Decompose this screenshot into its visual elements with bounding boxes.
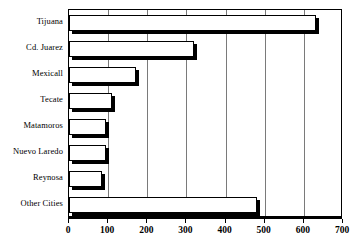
category-label: Matamoros — [0, 121, 63, 130]
axis-tick-label: 400 — [205, 225, 245, 236]
bar-row — [69, 41, 341, 57]
bar — [69, 15, 316, 31]
bar-row — [69, 119, 341, 135]
bar — [69, 67, 136, 83]
category-label: Nuevo Laredo — [0, 147, 63, 156]
axis-tick-label: 600 — [283, 225, 323, 236]
axis-tick — [146, 219, 147, 223]
axis-tick — [303, 219, 304, 223]
axis-tick-label: 300 — [165, 225, 205, 236]
axis-line — [68, 217, 342, 219]
bar — [69, 197, 257, 213]
axis-tick-label: 500 — [244, 225, 284, 236]
axis-tick — [225, 219, 226, 223]
axis-tick — [107, 219, 108, 223]
bar-row — [69, 93, 341, 109]
bar-row — [69, 145, 341, 161]
bar — [69, 171, 102, 187]
bar-row — [69, 171, 341, 187]
axis-tick-label: 100 — [87, 225, 127, 236]
axis-tick — [68, 219, 69, 223]
value-axis: 0100200300400500600700 — [68, 217, 342, 246]
axis-tick-label: 0 — [48, 225, 88, 236]
bar — [69, 93, 112, 109]
bar-chart: TijuanaCd. JuarezMexicallTecateMatamoros… — [0, 0, 354, 246]
category-label: Reynosa — [0, 173, 63, 182]
category-label: Cd. Juarez — [0, 43, 63, 52]
category-label: Tecate — [0, 95, 63, 104]
category-label: Other Cities — [0, 199, 63, 208]
category-label: Mexicall — [0, 69, 63, 78]
category-label: Tijuana — [0, 17, 63, 26]
axis-tick — [264, 219, 265, 223]
bar-row — [69, 67, 341, 83]
axis-tick — [185, 219, 186, 223]
bars-layer — [69, 10, 341, 216]
axis-tick — [342, 219, 343, 223]
axis-tick-label: 200 — [126, 225, 166, 236]
bar — [69, 41, 194, 57]
bar — [69, 145, 106, 161]
bar — [69, 119, 106, 135]
axis-tick-label: 700 — [322, 225, 354, 236]
bar-row — [69, 197, 341, 213]
plot-area — [68, 9, 342, 217]
category-axis: TijuanaCd. JuarezMexicallTecateMatamoros… — [0, 9, 66, 217]
bar-row — [69, 15, 341, 31]
